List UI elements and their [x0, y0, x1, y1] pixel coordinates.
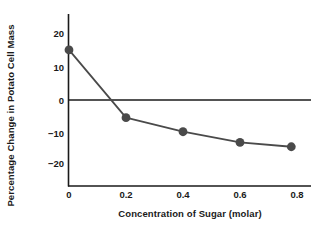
- data-point: [122, 113, 131, 122]
- data-point: [236, 138, 245, 147]
- plot-area: [0, 0, 326, 231]
- data-point: [179, 127, 188, 136]
- data-series-markers: [65, 46, 296, 152]
- data-point: [65, 46, 74, 55]
- data-point: [287, 142, 296, 151]
- chart-container: Percentage Change in Potato Cell Mass 20…: [0, 0, 326, 231]
